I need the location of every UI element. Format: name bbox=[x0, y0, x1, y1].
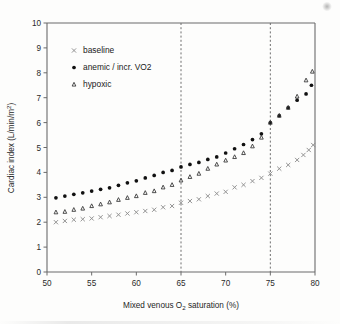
y-tick-label: 8 bbox=[36, 69, 41, 78]
marker-filled-circle bbox=[108, 186, 112, 190]
threshold-lines bbox=[181, 23, 270, 272]
y-tick-label: 10 bbox=[32, 19, 42, 28]
marker-filled-circle bbox=[206, 158, 210, 162]
x-tick-label: 60 bbox=[132, 279, 142, 288]
data-series-layer bbox=[54, 69, 315, 224]
y-tick-label: 0 bbox=[36, 268, 41, 277]
marker-filled-circle bbox=[179, 165, 183, 169]
marker-filled-circle bbox=[170, 169, 174, 173]
x-tick-label: 50 bbox=[42, 279, 52, 288]
y-tick-label: 5 bbox=[36, 144, 41, 153]
marker-filled-circle bbox=[90, 189, 94, 193]
marker-filled-circle bbox=[72, 66, 76, 70]
marker-open-triangle bbox=[72, 208, 76, 212]
marker-open-triangle bbox=[152, 189, 156, 193]
marker-open-triangle bbox=[295, 94, 299, 98]
marker-open-triangle bbox=[143, 191, 147, 195]
marker-open-triangle bbox=[251, 144, 255, 148]
cardiac-index-scatter-plot: 012345678910 50556065707580 Mixed venous… bbox=[0, 0, 340, 324]
marker-open-triangle bbox=[117, 198, 121, 202]
y-axis-ticks: 012345678910 bbox=[32, 19, 47, 277]
y-tick-label: 9 bbox=[36, 44, 41, 53]
marker-open-triangle bbox=[310, 69, 314, 73]
legend-label: anemic / incr. VO2 bbox=[83, 62, 152, 72]
marker-filled-circle bbox=[224, 151, 228, 155]
chart-legend: baselineanemic / incr. VO2hypoxic bbox=[72, 45, 152, 89]
series-baseline bbox=[54, 143, 315, 224]
marker-open-triangle bbox=[99, 202, 103, 206]
y-tick-label: 2 bbox=[36, 218, 41, 227]
marker-filled-circle bbox=[295, 98, 299, 102]
marker-open-triangle bbox=[108, 200, 112, 204]
y-tick-label: 7 bbox=[36, 94, 41, 103]
marker-open-triangle bbox=[170, 183, 174, 187]
marker-open-triangle bbox=[81, 206, 85, 210]
y-tick-label: 3 bbox=[36, 193, 41, 202]
marker-filled-circle bbox=[215, 155, 219, 159]
y-tick-label: 4 bbox=[36, 168, 41, 177]
marker-filled-circle bbox=[251, 138, 255, 142]
x-tick-label: 65 bbox=[176, 279, 186, 288]
marker-open-triangle bbox=[233, 155, 237, 159]
marker-open-triangle bbox=[90, 204, 94, 208]
marker-filled-circle bbox=[63, 194, 67, 198]
legend-item-baseline: baseline bbox=[72, 45, 115, 55]
marker-filled-circle bbox=[152, 174, 156, 178]
marker-filled-circle bbox=[188, 163, 192, 167]
marker-open-triangle bbox=[161, 185, 165, 189]
y-axis-title: Cardiac index (L/min/m2) bbox=[5, 103, 16, 194]
marker-filled-circle bbox=[161, 171, 165, 175]
marker-open-triangle bbox=[206, 166, 210, 170]
chart-figure: 012345678910 50556065707580 Mixed venous… bbox=[0, 0, 340, 324]
marker-filled-circle bbox=[54, 196, 58, 200]
marker-open-triangle bbox=[72, 82, 76, 86]
marker-open-triangle bbox=[126, 196, 130, 200]
marker-filled-circle bbox=[81, 191, 85, 195]
marker-open-triangle bbox=[304, 78, 308, 82]
x-tick-label: 70 bbox=[221, 279, 231, 288]
legend-item-hypoxic: hypoxic bbox=[72, 79, 111, 89]
marker-open-triangle bbox=[242, 151, 246, 155]
marker-filled-circle bbox=[233, 147, 237, 151]
marker-filled-circle bbox=[310, 83, 314, 87]
marker-filled-circle bbox=[99, 187, 103, 191]
x-axis-title: Mixed venous O2 saturation (%) bbox=[123, 301, 239, 311]
y-tick-label: 6 bbox=[36, 119, 41, 128]
legend-label: hypoxic bbox=[83, 79, 111, 89]
marker-open-triangle bbox=[54, 210, 58, 214]
marker-filled-circle bbox=[304, 92, 308, 96]
legend-item-anemic-incr-vo2: anemic / incr. VO2 bbox=[72, 62, 152, 72]
marker-open-triangle bbox=[188, 175, 192, 179]
marker-open-triangle bbox=[224, 158, 228, 162]
x-axis-ticks: 50556065707580 bbox=[42, 272, 320, 288]
marker-filled-circle bbox=[117, 183, 121, 187]
x-tick-label: 75 bbox=[266, 279, 276, 288]
scan-artifact-smudge bbox=[322, 2, 332, 11]
marker-filled-circle bbox=[143, 176, 147, 180]
marker-filled-circle bbox=[72, 192, 76, 196]
marker-filled-circle bbox=[134, 179, 138, 183]
marker-open-triangle bbox=[63, 210, 67, 214]
x-tick-label: 55 bbox=[87, 279, 97, 288]
marker-open-triangle bbox=[260, 135, 264, 139]
marker-open-triangle bbox=[215, 162, 219, 166]
marker-open-triangle bbox=[134, 194, 138, 198]
series-anemic-incr-vo2 bbox=[54, 83, 313, 199]
marker-open-triangle bbox=[197, 171, 201, 175]
marker-filled-circle bbox=[197, 161, 201, 165]
legend-label: baseline bbox=[83, 45, 115, 55]
x-tick-label: 80 bbox=[310, 279, 320, 288]
y-tick-label: 1 bbox=[36, 243, 41, 252]
marker-filled-circle bbox=[126, 181, 130, 185]
marker-filled-circle bbox=[242, 143, 246, 147]
